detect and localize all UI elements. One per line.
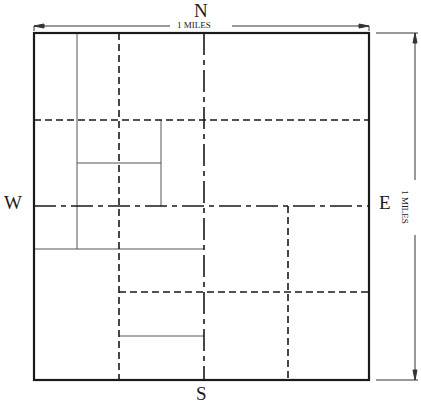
arrow-left-icon: [34, 24, 44, 28]
arrow-up-icon: [413, 33, 417, 43]
arrow-right-icon: [359, 24, 369, 28]
south-label: S: [196, 384, 207, 403]
north-label: N: [194, 1, 208, 20]
east-label: E: [379, 193, 391, 212]
arrow-down-icon: [413, 370, 417, 380]
horizontal-scale-label: 1 MILES: [174, 20, 214, 30]
section-map-diagram: [0, 0, 421, 414]
vertical-scale-label: 1 MILES: [400, 187, 410, 227]
center-lines: [34, 33, 369, 380]
west-label: W: [4, 193, 22, 212]
